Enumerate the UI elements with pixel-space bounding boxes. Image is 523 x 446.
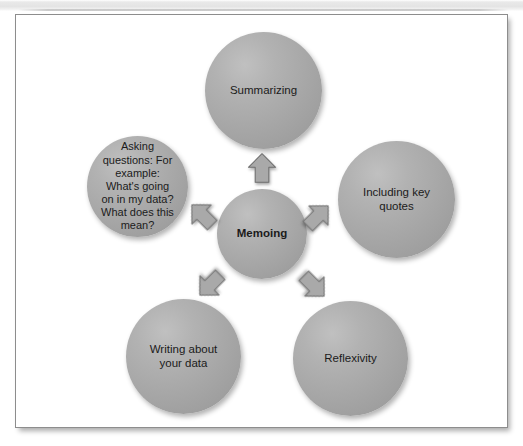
diagram-canvas: Summarizing Asking questions: For exampl… — [16, 15, 507, 427]
node-reflexivity-label: Reflexivity — [293, 352, 408, 366]
node-including-key-quotes-label: Including key quotes — [338, 186, 455, 213]
node-reflexivity[interactable]: Reflexivity — [293, 301, 408, 416]
page-edge-band — [0, 0, 523, 11]
arrow-up-icon — [245, 151, 279, 185]
node-summarizing-label: Summarizing — [205, 84, 322, 98]
node-asking-questions-label: Asking questions: For example: What's go… — [87, 140, 188, 232]
node-writing-about-your-data-label: Writing about your data — [126, 343, 241, 370]
node-asking-questions[interactable]: Asking questions: For example: What's go… — [87, 136, 188, 237]
node-including-key-quotes[interactable]: Including key quotes — [338, 141, 455, 258]
node-memoing-label: Memoing — [217, 227, 307, 241]
figure-frame: Summarizing Asking questions: For exampl… — [15, 14, 508, 428]
node-summarizing[interactable]: Summarizing — [205, 32, 322, 149]
node-memoing[interactable]: Memoing — [217, 189, 307, 279]
arrow-down-right-icon — [290, 262, 338, 310]
node-writing-about-your-data[interactable]: Writing about your data — [126, 299, 241, 414]
